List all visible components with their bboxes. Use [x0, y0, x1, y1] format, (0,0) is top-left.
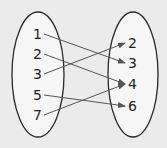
domain-value-7: 7 [33, 107, 42, 123]
range-value-2: 2 [128, 35, 137, 51]
domain-values: 12357 [33, 26, 42, 123]
mapping-diagram: 12357 2346 [0, 0, 167, 148]
domain-value-3: 3 [33, 66, 42, 82]
mapping-diagram-svg: 12357 2346 [0, 0, 167, 148]
domain-value-5: 5 [33, 87, 42, 103]
range-value-4: 4 [128, 76, 137, 92]
range-ellipse [108, 12, 158, 137]
domain-value-1: 1 [33, 26, 42, 42]
range-value-6: 6 [128, 98, 137, 114]
range-value-3: 3 [128, 55, 137, 71]
domain-value-2: 2 [33, 46, 42, 62]
